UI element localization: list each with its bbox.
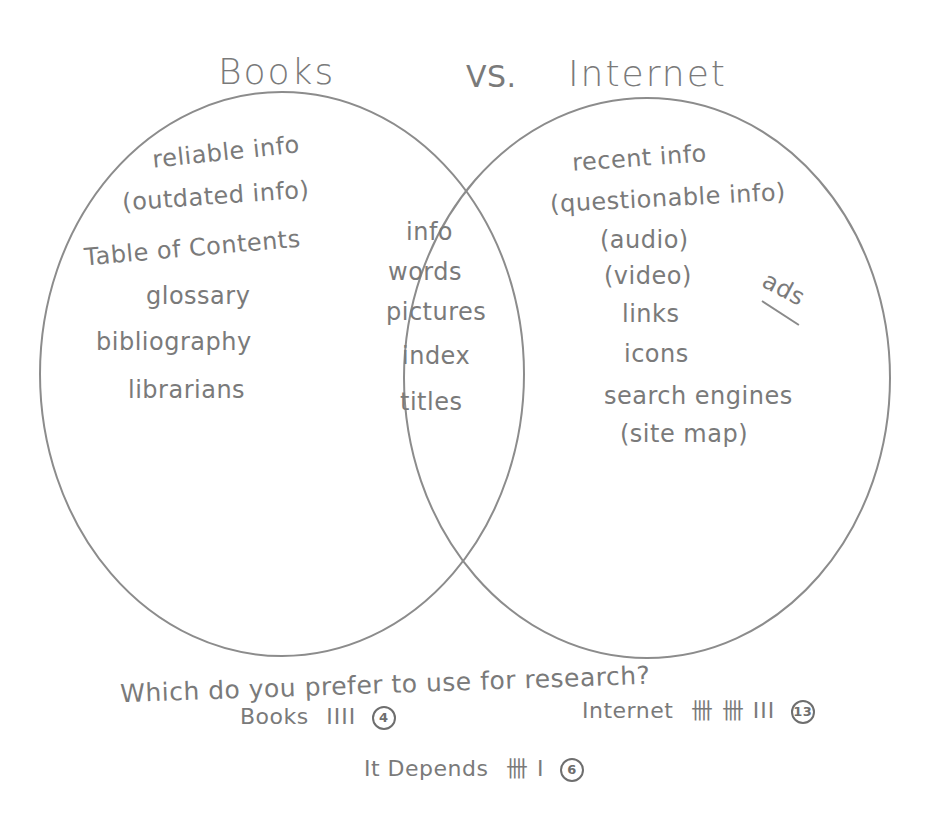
- list-item: index: [402, 344, 470, 368]
- list-item: words: [388, 260, 462, 284]
- response-option: It Depends: [364, 756, 488, 781]
- internet-circle: [404, 98, 890, 658]
- list-item: (audio): [600, 228, 689, 252]
- tally-marks: 卌 I: [506, 758, 544, 780]
- response-option: Books: [240, 704, 309, 729]
- list-item: titles: [400, 390, 462, 414]
- count-badge: 6: [560, 758, 584, 782]
- list-item: glossary: [146, 284, 250, 308]
- response-option: Internet: [582, 698, 673, 723]
- list-item: librarians: [128, 378, 245, 402]
- list-item: search engines: [604, 384, 793, 408]
- survey-response-internet: Internet 卌 卌 III 13: [582, 700, 815, 724]
- venn-diagram-page: Books VS. Internet reliable info (outdat…: [0, 0, 931, 822]
- count-badge: 4: [372, 706, 396, 730]
- survey-response-books: Books IIII 4: [240, 706, 396, 730]
- books-title: Books: [218, 54, 335, 90]
- list-item: (video): [604, 264, 692, 288]
- list-item: links: [622, 302, 679, 326]
- list-item: info: [406, 220, 453, 244]
- tally-marks: IIII: [326, 706, 356, 728]
- list-item: pictures: [386, 300, 486, 324]
- internet-title: Internet: [568, 56, 727, 92]
- tally-marks: 卌 卌 III: [691, 700, 775, 722]
- count-badge: 13: [791, 700, 815, 724]
- vs-label: VS.: [466, 62, 517, 92]
- survey-response-it-depends: It Depends 卌 I 6: [364, 758, 584, 782]
- list-item: (site map): [620, 422, 748, 446]
- list-item: bibliography: [96, 330, 252, 354]
- list-item: icons: [624, 342, 689, 366]
